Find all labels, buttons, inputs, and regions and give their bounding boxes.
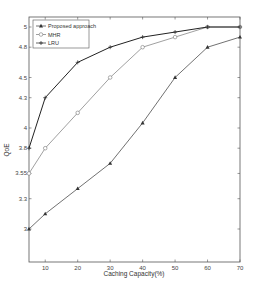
x-tick-label: 10 — [42, 265, 49, 271]
circle-marker-icon — [27, 172, 31, 176]
circle-marker-icon — [39, 33, 43, 37]
legend: Proposed approachMHRLRU — [33, 20, 96, 48]
circle-marker-icon — [76, 111, 80, 115]
circle-marker-icon — [43, 146, 47, 150]
circle-marker-icon — [173, 35, 177, 39]
x-tick-label: 60 — [204, 265, 211, 271]
legend-label: LRU — [48, 40, 59, 46]
y-tick-label: 5 — [24, 24, 28, 30]
y-tick-label: 3 — [24, 226, 28, 232]
x-tick-label: 20 — [74, 265, 81, 271]
circle-marker-icon — [141, 45, 145, 49]
x-tick-label: 70 — [237, 265, 244, 271]
plot-area — [29, 17, 240, 262]
circle-marker-icon — [108, 76, 112, 80]
y-axis-label: QoE — [3, 143, 11, 157]
y-tick-label: 4.8 — [19, 44, 28, 50]
line-chart: 33.33.553.844.34.54.85 10203040506070 Ca… — [0, 0, 255, 299]
legend-label: Proposed approach — [48, 23, 96, 29]
y-tick-label: 4.3 — [19, 95, 28, 101]
x-axis-label: Caching Capacity(%) — [103, 270, 164, 278]
y-tick-label: 4 — [24, 125, 28, 131]
y-tick-label: 3.55 — [15, 170, 27, 176]
y-tick-label: 3.8 — [19, 145, 28, 151]
x-tick-label: 50 — [172, 265, 179, 271]
legend-label: MHR — [48, 32, 61, 38]
y-tick-label: 3.3 — [19, 196, 28, 202]
y-tick-label: 4.5 — [19, 75, 28, 81]
